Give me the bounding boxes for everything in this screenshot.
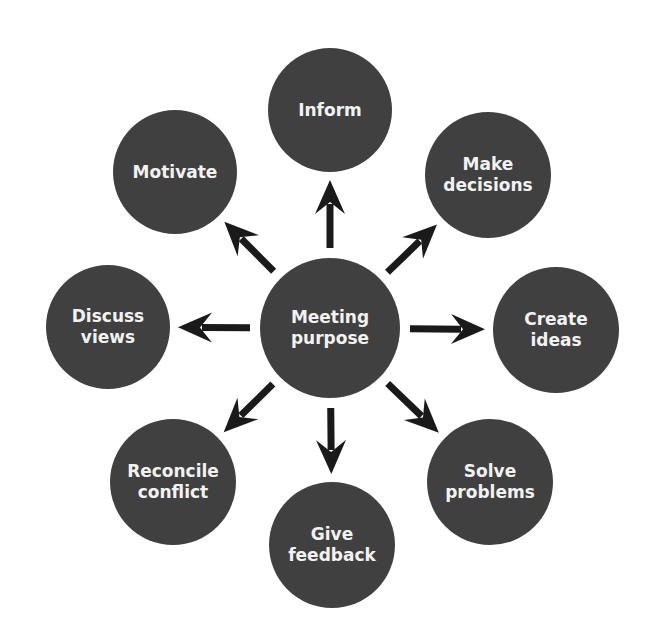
meeting-purpose-diagram: Meeting purpose Inform Make decisions Cr… <box>0 0 655 643</box>
center-label: Meeting purpose <box>291 307 369 349</box>
node-inform: Inform <box>268 48 392 172</box>
arrow-icon <box>388 383 439 432</box>
node-make-decisions: Make decisions <box>425 112 551 238</box>
node-label: Solve problems <box>445 461 535 503</box>
node-motivate: Motivate <box>113 110 237 234</box>
node-label: Discuss views <box>72 306 144 348</box>
node-label: Create ideas <box>524 309 588 351</box>
arrow-icon <box>224 222 273 272</box>
center-node-meeting-purpose: Meeting purpose <box>260 258 400 398</box>
node-label: Give feedback <box>288 524 376 566</box>
arrow-icon <box>224 384 273 432</box>
node-label: Motivate <box>133 162 218 183</box>
arrow-icon <box>410 314 485 344</box>
node-create-ideas: Create ideas <box>493 267 619 393</box>
arrow-icon <box>316 408 346 474</box>
node-discuss-views: Discuss views <box>46 265 170 389</box>
node-label: Reconcile conflict <box>127 461 219 503</box>
arrow-icon <box>178 312 250 342</box>
node-label: Inform <box>298 100 362 121</box>
arrow-icon <box>315 180 345 248</box>
arrow-icon <box>387 224 437 272</box>
node-label: Make decisions <box>443 154 532 196</box>
node-solve-problems: Solve problems <box>427 419 553 545</box>
node-reconcile-conflict: Reconcile conflict <box>110 419 236 545</box>
node-give-feedback: Give feedback <box>269 482 395 608</box>
